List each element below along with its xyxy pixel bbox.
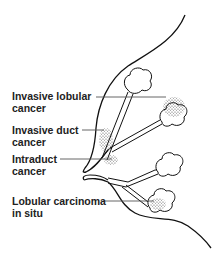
invasive-lobular-stipple: [163, 97, 185, 117]
label-line2: in situ: [12, 207, 106, 219]
lobule-upper: [124, 68, 151, 93]
label-line1: Invasive duct: [12, 124, 79, 136]
label-line2: cancer: [12, 102, 91, 114]
label-invasive-duct-cancer: Invasive duct cancer: [12, 124, 79, 148]
label-intraduct-cancer: Intraduct cancer: [12, 153, 57, 177]
lobule-middle: [156, 153, 183, 177]
label-line1: Intraduct: [12, 153, 57, 165]
label-line1: Invasive lobular: [12, 90, 91, 102]
label-line2: cancer: [12, 165, 57, 177]
label-lobular-carcinoma-in-situ: Lobular carcinoma in situ: [12, 195, 106, 219]
invasive-duct-stipple: [99, 128, 113, 152]
intraduct-stipple: [104, 155, 118, 165]
label-line1: Lobular carcinoma: [12, 195, 106, 207]
label-line2: cancer: [12, 136, 79, 148]
label-invasive-lobular-cancer: Invasive lobular cancer: [12, 90, 91, 114]
lcis-stipple: [150, 198, 166, 210]
